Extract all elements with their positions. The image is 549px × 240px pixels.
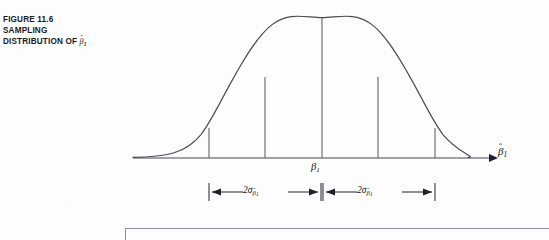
right-bracket-arrow-right-icon (423, 188, 432, 195)
right-sigma-subscript: ˆβ1 (367, 189, 373, 196)
axis-beta-hat-symbol: ˆβ (498, 146, 503, 157)
right-two-sigma-label: 2σˆβ1 (357, 185, 373, 197)
bottom-rule-box (125, 228, 549, 240)
bell-curve-path (133, 16, 470, 157)
sampling-distribution-diagram (0, 0, 549, 240)
left-sigma-hat-accent-icon: ˆ (253, 188, 255, 194)
left-bracket-arrow-left-icon (212, 188, 221, 195)
axis-hat-accent-icon: ˆ (499, 143, 502, 152)
right-bracket-arrow-left-icon (326, 188, 335, 195)
mean-axis-label: β1 (311, 162, 320, 174)
left-two-sigma-label: 2σˆβ1 (243, 185, 259, 197)
right-sigma-hat-accent-icon: ˆ (367, 188, 369, 194)
right-sigma-sub-beta-hat: ˆβ (367, 190, 370, 197)
left-sigma-sub-beta-hat: ˆβ (253, 190, 256, 197)
figure-page: FIGURE 11.6 SAMPLING DISTRIBUTION OF ˆβ1 (0, 0, 549, 240)
left-sigma-sub-index: 1 (256, 191, 259, 197)
left-bracket-arrow-right-icon (309, 188, 318, 195)
axis-beta-subscript: 1 (503, 150, 507, 159)
axis-arrow-head-icon (489, 154, 498, 162)
right-sigma-sub-index: 1 (370, 191, 373, 197)
left-sigma-subscript: ˆβ1 (253, 189, 259, 196)
axis-variable-label: ˆβ1 (498, 146, 507, 159)
mean-beta-subscript: 1 (316, 166, 320, 174)
